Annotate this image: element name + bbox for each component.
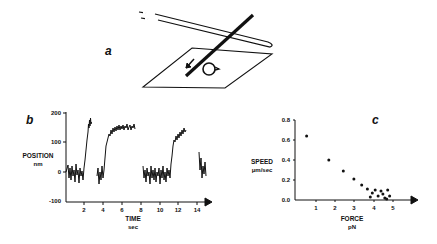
- data-point: [388, 195, 391, 198]
- data-point: [371, 192, 374, 195]
- svg-text:1: 1: [314, 205, 318, 211]
- data-point: [342, 170, 345, 173]
- svg-text:4: 4: [372, 205, 376, 211]
- svg-text:12: 12: [175, 207, 182, 213]
- panel-b-xlabel-unit: sec: [128, 224, 139, 230]
- data-point: [386, 189, 389, 192]
- data-point: [366, 188, 369, 191]
- panel-b-xlabel: TIME: [125, 215, 141, 222]
- data-point: [380, 190, 383, 193]
- svg-text:0.8: 0.8: [282, 117, 291, 123]
- data-point: [385, 198, 388, 201]
- data-point: [377, 195, 380, 198]
- svg-text:200: 200: [51, 110, 62, 116]
- panel-c-xticks: 1 2 3 4 5: [314, 205, 395, 211]
- panel-b-ylabel: POSITION: [22, 152, 53, 159]
- svg-text:3: 3: [352, 205, 356, 211]
- panel-c-axes: [293, 120, 418, 204]
- panel-b-ylabel-unit: nm: [34, 161, 43, 167]
- panel-a-schematic: [139, 12, 272, 88]
- panel-b-label: b: [26, 113, 33, 127]
- panel-a-label: a: [105, 44, 112, 58]
- svg-text:8: 8: [139, 207, 143, 213]
- panel-c-xlabel: FORCE: [341, 215, 364, 222]
- svg-text:0: 0: [58, 169, 62, 175]
- svg-text:2: 2: [333, 205, 337, 211]
- svg-text:0.0: 0.0: [282, 197, 291, 203]
- svg-text:14: 14: [194, 207, 201, 213]
- svg-text:5: 5: [391, 205, 395, 211]
- panel-c-points: [305, 135, 391, 201]
- data-point: [381, 193, 384, 196]
- panel-c-yticks: 0.8 0.6 0.4 0.2 0.0: [282, 117, 291, 203]
- panel-c-ylabel: SPEED: [251, 158, 273, 165]
- data-point: [327, 159, 330, 162]
- data-point: [374, 189, 377, 192]
- svg-text:-100: -100: [49, 198, 62, 204]
- svg-text:0.2: 0.2: [282, 177, 291, 183]
- data-point: [305, 135, 308, 138]
- figure: a b 200 100 0 -100 2 4 6 8 10 12 14 POSI…: [0, 0, 437, 244]
- data-point: [360, 184, 363, 187]
- panel-b-trace: [66, 118, 206, 184]
- data-point: [352, 178, 355, 181]
- svg-text:4: 4: [101, 207, 105, 213]
- panel-b-xticks: 2 4 6 8 10 12 14: [82, 207, 201, 213]
- svg-text:6: 6: [120, 207, 124, 213]
- svg-text:0.6: 0.6: [282, 137, 291, 143]
- svg-text:2: 2: [82, 207, 86, 213]
- panel-c-label: c: [372, 113, 379, 127]
- svg-text:0.4: 0.4: [282, 157, 291, 163]
- data-point: [369, 196, 372, 199]
- svg-text:100: 100: [51, 139, 62, 145]
- panel-c-ylabel-unit: μm/sec: [252, 167, 273, 173]
- svg-text:10: 10: [157, 207, 164, 213]
- panel-c-xlabel-unit: pN: [348, 224, 356, 230]
